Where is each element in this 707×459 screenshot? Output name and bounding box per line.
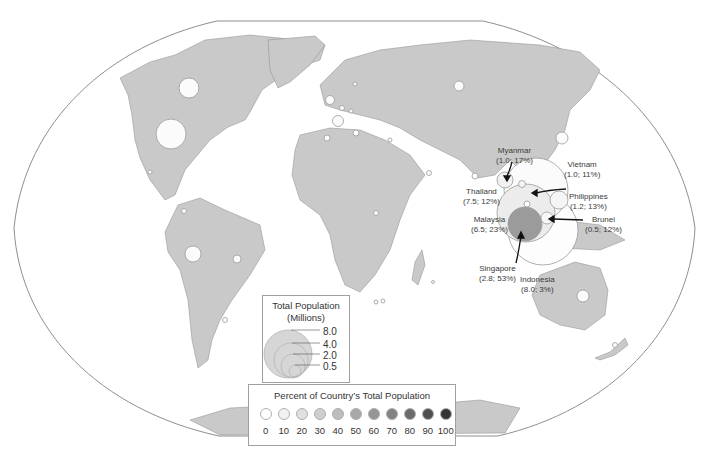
size-legend-title: Total Population (Millions)	[263, 300, 349, 324]
percent-legend-item: 10	[277, 408, 291, 436]
label-name: Singapore	[479, 264, 516, 274]
percent-swatch	[350, 408, 362, 420]
percent-label: 30	[314, 425, 325, 436]
percent-swatch	[260, 408, 272, 420]
percent-legend: Percent of Country’s Total Population 01…	[248, 384, 456, 446]
percent-label: 70	[386, 425, 397, 436]
label-brunei: Brunei (0.5; 12%)	[585, 215, 622, 235]
label-name: Malaysia	[471, 215, 508, 225]
size-legend-value: 8.0	[323, 326, 337, 337]
label-value: (6.5; 23%)	[471, 225, 508, 235]
percent-swatch	[296, 408, 308, 420]
size-legend: Total Population (Millions) 8.0 4.0 2.0 …	[262, 295, 350, 383]
percent-swatch	[332, 408, 344, 420]
label-philippines: Philippines (1.2; 13%)	[569, 192, 608, 212]
percent-legend-item: 0	[259, 408, 273, 436]
percent-swatch	[314, 408, 326, 420]
madagascar	[412, 250, 425, 285]
percent-swatch	[422, 408, 434, 420]
label-name: Myanmar	[496, 146, 533, 156]
label-value: (1.2; 13%)	[569, 202, 608, 212]
africa	[292, 128, 425, 292]
percent-legend-item: 90	[421, 408, 435, 436]
label-malaysia: Malaysia (6.5; 23%)	[471, 215, 508, 235]
percent-legend-item: 20	[295, 408, 309, 436]
percent-label: 50	[350, 425, 361, 436]
label-value: (8.0; 3%)	[520, 285, 555, 295]
south-america	[165, 198, 265, 368]
percent-legend-scale: 0102030405060708090100	[259, 408, 453, 436]
percent-label: 90	[422, 425, 433, 436]
percent-legend-item: 50	[349, 408, 363, 436]
percent-legend-item: 60	[367, 408, 381, 436]
size-legend-value: 2.0	[323, 350, 337, 361]
label-name: Indonesia	[520, 275, 555, 285]
percent-label: 0	[263, 425, 268, 436]
percent-label: 20	[296, 425, 307, 436]
percent-label: 80	[404, 425, 415, 436]
label-thailand: Thailand (7.5; 12%)	[463, 187, 500, 207]
australia	[532, 262, 608, 330]
label-value: (0.5; 12%)	[585, 225, 622, 235]
label-name: Philippines	[569, 192, 608, 202]
greenland	[268, 36, 325, 88]
percent-swatch	[368, 408, 380, 420]
percent-swatch	[440, 408, 452, 420]
label-name: Vietnam	[564, 160, 600, 170]
size-legend-value: 0.5	[323, 361, 337, 372]
percent-legend-item: 70	[385, 408, 399, 436]
percent-swatch	[278, 408, 290, 420]
label-singapore: Singapore (2.8; 53%)	[479, 264, 516, 284]
new-zealand	[595, 338, 628, 360]
bubble-philippines	[550, 191, 568, 209]
label-name: Brunei	[585, 215, 622, 225]
size-legend-title-line2: (Millions)	[263, 312, 349, 324]
label-value: (2.8; 53%)	[479, 274, 516, 284]
percent-legend-title: Percent of Country’s Total Population	[249, 390, 455, 401]
label-value: (1.0; 11%)	[564, 170, 600, 180]
percent-legend-item: 80	[403, 408, 417, 436]
label-vietnam: Vietnam (1.0; 11%)	[564, 160, 600, 180]
bubble-vietnam	[519, 181, 526, 188]
percent-label: 10	[278, 425, 289, 436]
label-value: (1.0; 17%)	[496, 156, 533, 166]
bubble-singapore	[508, 207, 542, 241]
percent-swatch	[404, 408, 416, 420]
label-indonesia: Indonesia (8.0; 3%)	[520, 275, 555, 295]
label-value: (7.5; 12%)	[463, 197, 500, 207]
label-myanmar: Myanmar (1.0; 17%)	[496, 146, 533, 166]
percent-swatch	[386, 408, 398, 420]
size-legend-title-line1: Total Population	[263, 300, 349, 312]
percent-label: 40	[332, 425, 343, 436]
percent-legend-item: 100	[439, 408, 453, 436]
label-name: Thailand	[463, 187, 500, 197]
percent-legend-item: 40	[331, 408, 345, 436]
bubble-myanmar	[497, 172, 513, 188]
percent-label: 100	[438, 425, 454, 436]
percent-label: 60	[368, 425, 379, 436]
size-legend-value: 4.0	[323, 339, 337, 350]
percent-legend-item: 30	[313, 408, 327, 436]
